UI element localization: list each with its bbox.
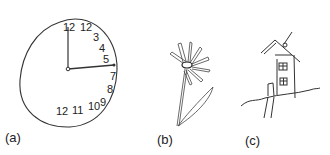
clock-number: 12 (80, 21, 92, 33)
clock-number: 12 (63, 21, 75, 33)
flower-drawing (130, 0, 230, 155)
panel-label-c: (c) (245, 133, 260, 148)
clock-number: 12 (56, 105, 68, 117)
clock-number: 10 (88, 100, 100, 112)
clock-number: 8 (107, 83, 113, 95)
clock-number: 9 (100, 96, 106, 108)
panel-label-b: (b) (157, 132, 173, 147)
house-drawing (220, 0, 330, 155)
panel-label-a: (a) (5, 130, 21, 145)
panel-house: (c) (220, 0, 330, 155)
panel-flower: (b) (130, 0, 230, 155)
clock-number: 11 (72, 104, 83, 116)
clock-number: 5 (103, 53, 109, 65)
clock-number: 7 (110, 70, 116, 82)
panel-clock: 12 12 3 4 5 7 8 12 11 10 9 (a) (0, 0, 130, 155)
